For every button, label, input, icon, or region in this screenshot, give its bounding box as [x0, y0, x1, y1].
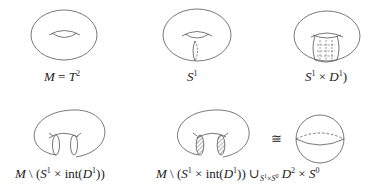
- diagram-canvas: [0, 0, 378, 192]
- label-part: M: [156, 166, 167, 181]
- label-part: ×: [295, 166, 309, 181]
- torus-capped-label: M \ (S1 × int(D1)) ∪S1×S0 D2 × S0: [156, 166, 319, 183]
- homeomorphic-symbol: ≅: [271, 131, 282, 147]
- circle-label: S1: [187, 69, 198, 85]
- torus-thickened-figure: [294, 11, 360, 62]
- label-part: D: [329, 69, 338, 84]
- thickened-circle-label: S1 × D1): [305, 69, 347, 85]
- label-part: )) ∪: [237, 166, 260, 181]
- torus-meridian-figure: [163, 9, 231, 61]
- label-part: 2: [76, 69, 80, 78]
- label-part: =: [55, 69, 69, 84]
- label-part: )): [96, 166, 105, 181]
- label-part: M: [44, 69, 55, 84]
- label-part: 0: [315, 166, 319, 175]
- label-part: ): [343, 69, 347, 84]
- torus-label: M = T2: [44, 69, 80, 85]
- label-part: × int(: [192, 166, 224, 181]
- label-part: T: [69, 69, 76, 84]
- label-part: × int(: [51, 166, 83, 181]
- label-part: M: [15, 166, 26, 181]
- label-part: D: [83, 166, 92, 181]
- label-part: D: [278, 166, 291, 181]
- torus-capped-figure: [178, 110, 250, 157]
- label-part: \ (: [26, 166, 40, 181]
- torus-figure: [31, 10, 97, 60]
- sphere-figure: [296, 115, 344, 163]
- label-part: 1: [194, 69, 198, 78]
- label-part: D: [224, 166, 233, 181]
- torus-cut-label: M \ (S1 × int(D1)): [15, 166, 105, 182]
- label-part: ×: [316, 69, 330, 84]
- label-part: \ (: [167, 166, 181, 181]
- torus-cut-figure: [34, 110, 105, 157]
